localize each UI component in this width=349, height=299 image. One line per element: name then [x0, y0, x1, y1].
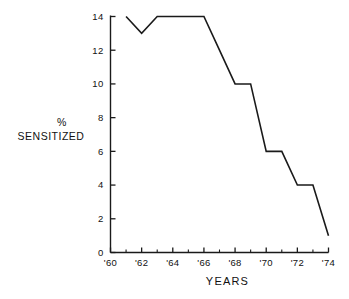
line-chart: 02468101214 '60'62'64'66'68'70'72'74 % S…	[0, 0, 349, 299]
chart-background	[0, 0, 349, 299]
y-tick-label: 10	[92, 78, 103, 89]
y-tick-label: 4	[98, 179, 104, 190]
y-tick-label: 0	[98, 247, 104, 258]
y-tick-label: 6	[98, 146, 104, 157]
x-tick-label: '72	[291, 257, 304, 268]
chart-figure: 02468101214 '60'62'64'66'68'70'72'74 % S…	[0, 0, 349, 299]
y-tick-label: 8	[98, 112, 104, 123]
x-tick-label: '70	[260, 257, 273, 268]
y-axis-label-sensitized: SENSITIZED	[18, 130, 85, 142]
x-axis-label: YEARS	[206, 275, 249, 287]
y-axis-label-percent: %	[57, 116, 67, 128]
x-tick-label: '66	[197, 257, 210, 268]
y-tick-label: 14	[92, 11, 103, 22]
x-tick-label: '74	[322, 257, 335, 268]
x-tick-label: '64	[166, 257, 179, 268]
x-tick-label: '60	[104, 257, 117, 268]
x-tick-label: '68	[228, 257, 241, 268]
x-tick-label: '62	[135, 257, 148, 268]
y-tick-label: 12	[92, 45, 103, 56]
y-tick-label: 2	[98, 213, 104, 224]
